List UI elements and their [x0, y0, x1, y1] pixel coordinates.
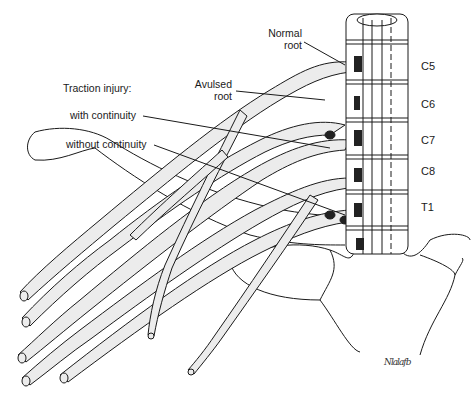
label-avulsed-root-line2: root: [190, 90, 232, 102]
label-without-continuity: without continuity: [66, 138, 147, 150]
injury-with-continuity: [325, 211, 335, 219]
label-normal-root-line2: root: [262, 39, 302, 51]
level-c8: C8: [421, 165, 435, 177]
avulsed-root-end: [325, 131, 335, 139]
label-avulsed-root: Avulsed root: [190, 78, 232, 102]
level-t1: T1: [421, 201, 434, 213]
label-traction-injury: Traction injury:: [63, 82, 131, 94]
leader-normal-root: [304, 42, 345, 65]
label-avulsed-root-line1: Avulsed: [190, 78, 232, 90]
label-normal-root: Normal root: [262, 27, 302, 51]
artist-signature: Nlalafb: [384, 357, 410, 367]
level-c6: C6: [421, 98, 435, 110]
label-with-continuity: with continuity: [70, 109, 136, 121]
level-c7: C7: [421, 134, 435, 146]
label-normal-root-line1: Normal: [262, 27, 302, 39]
plexus-drawing: [0, 0, 471, 410]
level-c5: C5: [421, 60, 435, 72]
